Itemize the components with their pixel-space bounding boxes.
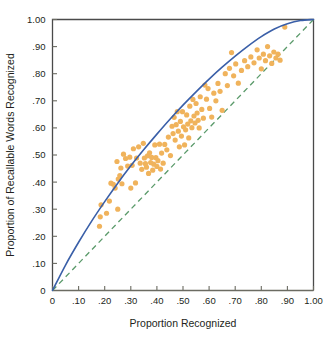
data-point-88 (220, 108, 225, 113)
data-point-66 (187, 104, 192, 109)
data-point-52 (173, 137, 178, 142)
data-point-83 (209, 114, 214, 119)
data-point-90 (225, 83, 230, 88)
data-point-73 (194, 110, 199, 115)
data-point-74 (196, 118, 201, 123)
data-point-58 (179, 133, 184, 138)
x-tick-label-4: .40 (150, 295, 163, 306)
data-point-89 (223, 71, 228, 76)
y-tick-label-6: .60 (32, 122, 45, 133)
x-tick-label-2: .20 (98, 295, 111, 306)
data-point-26 (141, 141, 146, 146)
data-point-81 (205, 86, 210, 91)
y-tick-label-5: .50 (32, 149, 45, 160)
chart-canvas: 0.10.20.30.40.50.60.70.80.901.00 0.10.20… (0, 0, 327, 337)
x-tick-label-9: .90 (281, 295, 294, 306)
data-point-42 (158, 166, 163, 171)
data-point-80 (204, 97, 209, 102)
x-tick-label-7: .70 (229, 295, 242, 306)
scatter-plot-figure: 0.10.20.30.40.50.60.70.80.901.00 0.10.20… (0, 0, 327, 337)
data-point-50 (170, 131, 175, 136)
data-point-72 (193, 101, 198, 106)
data-point-3 (104, 211, 109, 216)
data-point-96 (239, 68, 244, 73)
x-tick-label-10: 1.00 (304, 295, 323, 306)
data-point-47 (166, 135, 171, 140)
y-tick-label-0: 0 (40, 285, 45, 296)
data-point-45 (162, 142, 167, 147)
y-tick-label-3: .30 (32, 204, 45, 215)
data-point-44 (161, 161, 166, 166)
data-point-100 (251, 60, 256, 65)
data-point-104 (261, 52, 266, 57)
data-point-4 (107, 198, 112, 203)
data-point-75 (197, 125, 202, 130)
data-point-94 (233, 61, 238, 66)
data-point-24 (138, 161, 143, 166)
data-point-77 (199, 107, 204, 112)
data-point-82 (207, 106, 212, 111)
x-tick-label-6: .60 (202, 295, 215, 306)
x-tick-label-8: .80 (255, 295, 268, 306)
data-point-99 (248, 54, 253, 59)
data-point-97 (242, 58, 247, 63)
data-point-68 (189, 125, 194, 130)
data-point-92 (229, 50, 234, 55)
data-point-78 (201, 116, 206, 121)
y-tick-label-1: .10 (32, 258, 45, 269)
x-tick-label-1: .10 (72, 295, 85, 306)
x-axis-title: Proportion Recognized (130, 317, 237, 329)
data-point-55 (176, 129, 181, 134)
data-point-63 (184, 112, 189, 117)
data-point-103 (259, 66, 264, 71)
data-point-20 (131, 146, 136, 151)
data-point-1 (98, 214, 103, 219)
data-point-84 (211, 91, 216, 96)
data-point-48 (168, 153, 173, 158)
data-point-37 (152, 142, 157, 147)
y-tick-label-10: 1.00 (27, 14, 46, 25)
data-point-40 (155, 158, 160, 163)
data-point-108 (269, 61, 274, 66)
x-tick-label-0: 0 (50, 295, 55, 306)
data-point-76 (198, 94, 203, 99)
data-point-57 (178, 119, 183, 124)
data-point-85 (213, 98, 218, 103)
data-point-9 (115, 207, 120, 212)
data-point-105 (263, 58, 268, 63)
data-point-95 (236, 81, 241, 86)
data-point-98 (245, 64, 250, 69)
data-point-111 (275, 52, 280, 57)
data-point-8 (114, 159, 119, 164)
y-tick-label-9: .90 (32, 41, 45, 52)
data-point-25 (139, 167, 144, 172)
x-tick-label-5: .50 (176, 295, 189, 306)
data-point-41 (157, 142, 162, 147)
data-point-23 (136, 144, 141, 149)
data-point-17 (127, 155, 132, 160)
data-point-93 (231, 73, 236, 78)
data-point-46 (164, 147, 169, 152)
data-point-107 (267, 53, 272, 58)
y-axis-title: Proportion of Recallable Words Recognize… (4, 53, 16, 257)
data-point-102 (257, 55, 262, 60)
data-point-65 (186, 135, 191, 140)
data-point-101 (255, 47, 260, 52)
data-point-62 (183, 127, 188, 132)
y-tick-label-7: .70 (32, 95, 45, 106)
data-point-91 (227, 66, 232, 71)
data-point-12 (118, 165, 123, 170)
data-point-35 (150, 168, 155, 173)
data-point-56 (177, 144, 182, 149)
y-tick-label-8: .80 (32, 68, 45, 79)
data-point-87 (217, 89, 222, 94)
y-tick-label-4: .40 (32, 177, 45, 188)
data-point-31 (146, 171, 151, 176)
data-point-61 (182, 142, 187, 147)
figure-background (0, 0, 327, 337)
data-point-59 (180, 109, 185, 114)
data-point-0 (97, 224, 102, 229)
data-point-53 (174, 122, 179, 127)
data-point-13 (119, 181, 124, 186)
data-point-43 (159, 151, 164, 156)
